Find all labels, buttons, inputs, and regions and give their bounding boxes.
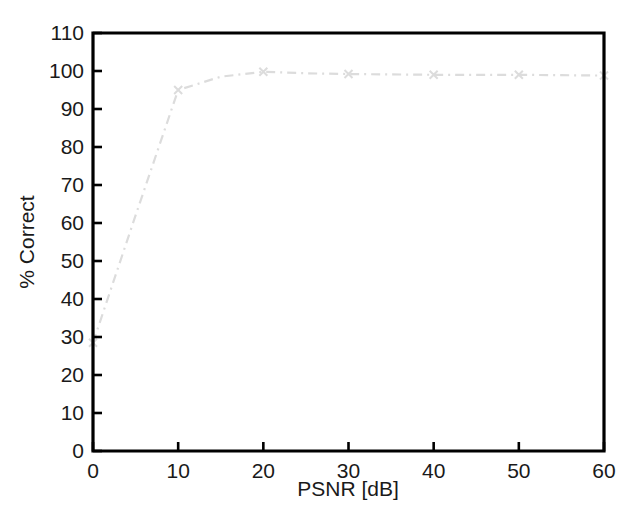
y-tick-label: 80 xyxy=(61,135,84,158)
x-tick-label: 10 xyxy=(166,459,189,482)
y-tick-label: 30 xyxy=(61,325,84,348)
plot-area: 0102030405060 0102030405060708090100110 … xyxy=(0,0,631,524)
x-tick-label: 0 xyxy=(87,459,99,482)
y-tick-label: 0 xyxy=(72,439,84,462)
y-tick-label: 70 xyxy=(61,173,84,196)
y-tick-label: 110 xyxy=(51,21,84,44)
figure-canvas: 0102030405060 0102030405060708090100110 … xyxy=(0,0,631,524)
y-tick-label: 100 xyxy=(49,59,84,82)
x-tick-label: 40 xyxy=(422,459,445,482)
y-tick-label: 90 xyxy=(61,97,84,120)
x-axis-title: PSNR [dB] xyxy=(297,477,399,500)
x-tick-label: 50 xyxy=(507,459,530,482)
y-tick-label: 40 xyxy=(61,287,84,310)
x-tick-label: 60 xyxy=(592,459,615,482)
y-tick-label: 50 xyxy=(61,249,84,272)
y-tick-label: 10 xyxy=(61,401,84,424)
y-tick-label: 20 xyxy=(61,363,84,386)
y-tick-label: 60 xyxy=(61,211,84,234)
x-tick-label: 20 xyxy=(252,459,275,482)
y-axis-title: % Correct xyxy=(15,195,38,289)
